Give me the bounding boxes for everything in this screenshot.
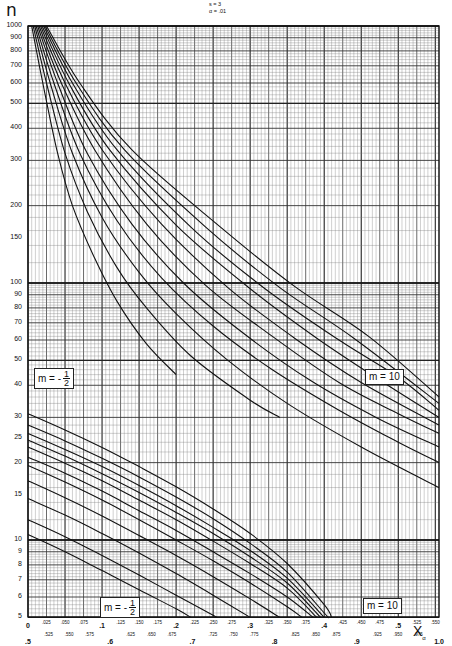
x-tick-label: .050 — [61, 620, 70, 625]
x-tick-label: .075 — [79, 620, 88, 625]
x-tick-label: .375 — [301, 620, 310, 625]
denominator: 2 — [64, 379, 69, 387]
numerator: 1 — [64, 370, 69, 378]
fraction: 12 — [129, 599, 136, 616]
x-tick-label: .125 — [116, 620, 125, 625]
y-tick-label: 30 — [0, 412, 22, 419]
x-tick-label: .275 — [227, 620, 236, 625]
y-tick-label: 1000 — [0, 21, 22, 28]
x-tick-label: .1 — [99, 622, 105, 629]
x-tick-label: .775 — [250, 632, 259, 637]
x-tick-label: 1.0 — [434, 638, 444, 645]
x-tick-label: .650 — [147, 632, 156, 637]
y-tick-label: 600 — [0, 78, 22, 85]
y-tick-label: 50 — [0, 355, 22, 362]
label-text: m = - — [104, 602, 127, 614]
x-axis-subscript: α — [422, 635, 425, 641]
label-lower-m-10: m = 10 — [363, 598, 402, 614]
x-tick-label: .5 — [395, 622, 401, 629]
plot-frame — [28, 26, 439, 617]
x-tick-label: .825 — [291, 632, 300, 637]
curves — [28, 26, 439, 618]
y-tick-label: 80 — [0, 303, 22, 310]
x-tick-label: .225 — [190, 620, 199, 625]
x-tick-label: .950 — [394, 632, 403, 637]
param-s: s = 3 — [209, 1, 226, 8]
y-tick-label: 900 — [0, 33, 22, 40]
y-tick-label: 6 — [0, 592, 22, 599]
x-tick-label: .325 — [264, 620, 273, 625]
y-tick-label: 7 — [0, 575, 22, 582]
x-tick-label: .925 — [373, 632, 382, 637]
label-upper-m-10: m = 10 — [365, 369, 404, 385]
x-tick-label: .250 — [209, 620, 218, 625]
x-tick-label: .750 — [229, 632, 238, 637]
x-tick-label: .850 — [311, 632, 320, 637]
x-tick-label: .7 — [189, 638, 195, 645]
x-tick-label: .9 — [354, 638, 360, 645]
x-tick-label: .150 — [135, 620, 144, 625]
label-text: m = 10 — [369, 371, 400, 383]
y-tick-label: 100 — [0, 278, 22, 285]
x-tick-label: .4 — [321, 622, 327, 629]
y-tick-label: 20 — [0, 458, 22, 465]
y-tick-label: 10 — [0, 535, 22, 542]
y-tick-label: 70 — [0, 318, 22, 325]
x-tick-label: .725 — [209, 632, 218, 637]
x-tick-label: .6 — [107, 638, 113, 645]
x-axis-title: Xα — [413, 623, 426, 641]
y-tick-label: 400 — [0, 123, 22, 130]
y-tick-label: 9 — [0, 547, 22, 554]
y-tick-label: 8 — [0, 560, 22, 567]
y-tick-label: 5 — [0, 612, 22, 619]
x-tick-label: .675 — [167, 632, 176, 637]
x-tick-label: .350 — [283, 620, 292, 625]
x-tick-label: .525 — [44, 632, 53, 637]
x-tick-label: .575 — [85, 632, 94, 637]
y-tick-label: 90 — [0, 290, 22, 297]
denominator: 2 — [130, 608, 135, 616]
y-axis-title: n — [6, 0, 17, 20]
x-tick-label: .475 — [375, 620, 384, 625]
y-tick-label: 150 — [0, 233, 22, 240]
x-tick-label: 0 — [26, 622, 30, 629]
x-tick-label: .3 — [247, 622, 253, 629]
label-upper-m-neg-half: m = - 12 — [34, 368, 74, 389]
x-tick-label: .025 — [42, 620, 51, 625]
y-tick-label: 300 — [0, 155, 22, 162]
x-tick-label: .175 — [153, 620, 162, 625]
numerator: 1 — [130, 599, 135, 607]
param-alpha: α = .01 — [209, 8, 226, 15]
label-text: m = - — [38, 373, 61, 385]
y-tick-label: 800 — [0, 46, 22, 53]
x-tick-label: .2 — [173, 622, 179, 629]
x-tick-label: .550 — [431, 620, 440, 625]
y-tick-label: 700 — [0, 61, 22, 68]
y-tick-label: 200 — [0, 201, 22, 208]
x-tick-label: .5 — [25, 638, 31, 645]
y-tick-label: 40 — [0, 380, 22, 387]
y-tick-label: 15 — [0, 490, 22, 497]
label-text: m = 10 — [367, 600, 398, 612]
y-tick-label: 60 — [0, 335, 22, 342]
grid — [28, 26, 439, 617]
x-tick-label: .875 — [332, 632, 341, 637]
x-tick-label: .550 — [65, 632, 74, 637]
label-lower-m-neg-half: m = - 12 — [100, 597, 140, 618]
fraction: 12 — [63, 370, 70, 387]
x-tick-label: .625 — [126, 632, 135, 637]
x-tick-label: .450 — [357, 620, 366, 625]
y-tick-label: 500 — [0, 98, 22, 105]
chart-parameters: s = 3 α = .01 — [209, 1, 226, 15]
x-axis-symbol: X — [413, 623, 422, 639]
x-tick-label: .425 — [338, 620, 347, 625]
chart-plot — [0, 0, 452, 646]
x-tick-label: .8 — [272, 638, 278, 645]
y-tick-label: 25 — [0, 433, 22, 440]
